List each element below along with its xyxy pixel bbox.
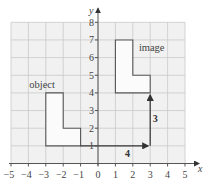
image-label: image (139, 42, 165, 53)
y-tick-label: 7 (89, 34, 94, 45)
x-tick-label: −4 (21, 169, 32, 180)
y-tick-label: 8 (89, 17, 94, 28)
x-tick-label: 1 (113, 169, 118, 180)
x-tick-label: −2 (56, 169, 67, 180)
y-tick-label: 5 (89, 70, 94, 81)
x-axis-label: x (197, 163, 203, 174)
y-tick-label: 4 (89, 87, 94, 98)
x-tick-label: −3 (38, 169, 49, 180)
y-tick-label: 3 (89, 105, 94, 116)
vector-x-label: 4 (125, 148, 130, 159)
x-tick-label: 0 (96, 169, 101, 180)
vector-y-label: 3 (153, 113, 158, 124)
y-tick-label: 6 (89, 52, 94, 63)
x-tick-label: 2 (130, 169, 135, 180)
y-axis-label: y (88, 5, 94, 16)
x-tick-label: 3 (148, 169, 153, 180)
y-tick-label: 2 (89, 123, 94, 134)
y-tick-label: 1 (89, 140, 94, 151)
x-tick-label: 5 (183, 169, 188, 180)
x-tick-label: −1 (73, 169, 84, 180)
x-tick-label: 4 (165, 169, 170, 180)
translation-diagram: −5−4−3−2−101234512345678xyobjectimage43 (0, 0, 209, 191)
object-label: object (29, 79, 55, 90)
x-tick-label: −5 (4, 169, 15, 180)
